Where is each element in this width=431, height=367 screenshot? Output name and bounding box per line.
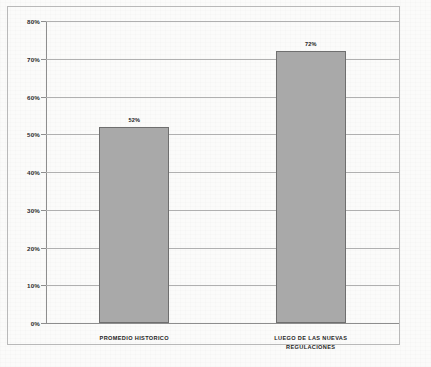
bar-value-label: 52%: [129, 117, 141, 123]
y-tick-mark: [41, 134, 46, 135]
y-tick-mark: [41, 210, 46, 211]
y-axis-tick-label: 30%: [6, 206, 40, 213]
bar: [99, 127, 169, 323]
x-axis-category-label: LUEGO DE LAS NUEVAS REGULACIONES: [246, 334, 376, 351]
y-tick-mark: [41, 285, 46, 286]
y-tick-mark: [41, 21, 46, 22]
gridline-70: [46, 59, 399, 60]
y-axis-tick-label: 80%: [6, 18, 40, 25]
bar-value-label: 72%: [305, 41, 317, 47]
y-axis-tick-label: 70%: [6, 55, 40, 62]
y-tick-mark: [41, 172, 46, 173]
gridline-80: [46, 21, 399, 22]
y-axis-tick-label: 20%: [6, 244, 40, 251]
y-axis-tick-label: 0%: [6, 320, 40, 327]
y-axis-tick-label: 60%: [6, 93, 40, 100]
bar: [276, 51, 346, 323]
bar-chart: 0%10%20%30%40%50%60%70%80% 52%PROMEDIO H…: [0, 0, 431, 367]
plot-area: [46, 21, 399, 323]
y-tick-mark: [41, 248, 46, 249]
y-axis-tick-label: 10%: [6, 282, 40, 289]
gridline-60: [46, 97, 399, 98]
y-axis-tick-label: 40%: [6, 169, 40, 176]
x-axis-category-label: PROMEDIO HISTORICO: [69, 334, 199, 343]
y-tick-mark: [41, 323, 46, 324]
y-tick-mark: [41, 97, 46, 98]
y-tick-mark: [41, 59, 46, 60]
gridline-0: [46, 323, 399, 324]
y-axis-tick-label: 50%: [6, 131, 40, 138]
